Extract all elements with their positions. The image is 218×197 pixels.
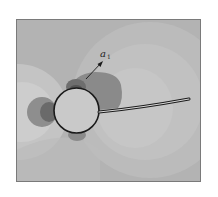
- plot-area: [0, 19, 218, 182]
- contour-figure: a1: [0, 0, 218, 197]
- arrow-label-subscript: 1: [107, 53, 111, 60]
- arrow-label-main: a: [100, 48, 106, 59]
- figure-canvas: a1: [0, 0, 218, 197]
